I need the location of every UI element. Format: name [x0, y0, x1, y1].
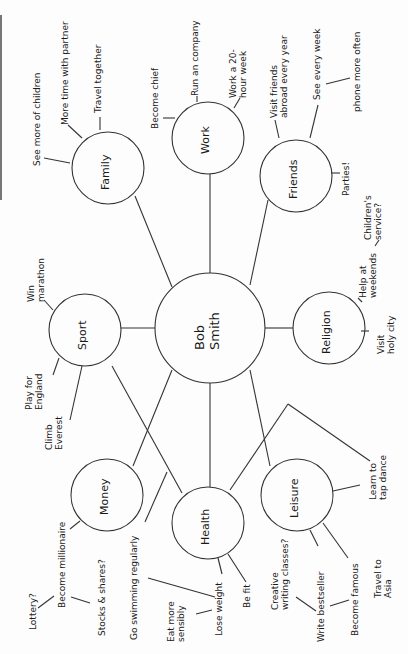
leaf-run-a-company: Run an company: [190, 20, 200, 96]
leaf-work-20-hour-week: Work a 20- hour week: [228, 49, 249, 98]
leaf-help-at-weekends: Help at weekends: [358, 253, 379, 298]
connector-family: [135, 196, 172, 287]
connector-health-tapdance-b: [288, 404, 370, 461]
leaf-travel-together: Travel together: [93, 45, 103, 113]
node-money-label: Money: [99, 479, 112, 515]
leaf-visit-friends-abroad: Visit friends abroad every year: [269, 35, 290, 118]
connector-leisure: [250, 370, 270, 466]
leaf-stocks-and-shares: Stocks & shares?: [97, 559, 107, 636]
leaf-eat-more-sensibly: Eat more sensibly: [166, 601, 187, 642]
node-friends-label: Friends: [288, 159, 301, 199]
leaf-lose-weight: Lose weight: [214, 582, 224, 636]
node-sport-label: Sport: [77, 320, 90, 350]
leaf-become-chief: Become chief: [150, 68, 160, 129]
leaf-learn-to-tap-dance: Learn to tap dance: [368, 455, 389, 500]
leaf-creative-writing-classes: Creative writing classes?: [270, 539, 291, 610]
mind-map-canvas: Bob Smith Family Work Friends Sport Reli…: [0, 0, 408, 654]
leaf-write-bestseller: Write bestseller: [316, 571, 326, 642]
leaf-become-millionaire: Become millionaire: [57, 522, 67, 608]
leaf-visit-holy-city: Visit holy city: [376, 316, 397, 354]
leaf-win-marathon: Win marathon: [26, 258, 47, 302]
leaf-go-swimming-regularly: Go swimming regularly: [129, 536, 139, 640]
leaf-lottery: Lottery?: [28, 593, 38, 630]
connector-health-tapdance-a: [230, 404, 288, 490]
leaf-childrens-service: Children's service?: [363, 195, 384, 240]
node-religion-label: Religion: [321, 310, 334, 354]
node-work-label: Work: [200, 126, 213, 154]
leaf-play-for-england: Play for England: [24, 373, 45, 410]
leaf-parties: Parties!: [341, 162, 351, 196]
connector-sport-health: [112, 366, 182, 493]
connector-money: [133, 370, 172, 466]
leaf-phone-more-often: phone more often: [352, 32, 362, 113]
node-leisure-label: Leisure: [289, 478, 302, 518]
connector-friends: [250, 200, 268, 285]
node-family-label: Family: [100, 155, 113, 190]
connector-health-swimming: [145, 472, 167, 522]
leaf-climb-everest: Climb Everest: [44, 416, 65, 450]
node-health-label: Health: [200, 509, 213, 545]
leaf-become-famous: Become famous: [350, 563, 360, 636]
leaf-more-time-with-partner: More time with partner: [60, 21, 70, 125]
center-node-label: Bob Smith: [193, 312, 223, 350]
leaf-travel-to-asia: Travel to Asia: [373, 559, 394, 598]
leaf-see-every-week: See every week: [312, 28, 322, 100]
leaf-be-fit: Be fit: [242, 584, 252, 608]
leaf-see-more-of-children: See more of children: [32, 73, 42, 166]
